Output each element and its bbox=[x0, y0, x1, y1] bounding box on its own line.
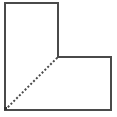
dashed-diagonal bbox=[5, 57, 58, 110]
corner-vertex-marker bbox=[4, 107, 7, 110]
l-shape-outline bbox=[5, 3, 111, 110]
l-shape-diagram bbox=[0, 0, 117, 117]
